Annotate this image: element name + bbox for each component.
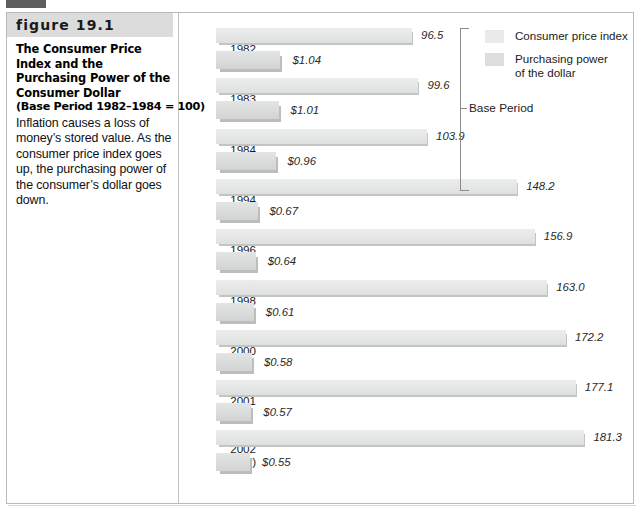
caption-title-line-1: The Consumer Price Index and the	[16, 42, 174, 71]
bar-value-consumer-price-index: 96.5	[421, 29, 443, 42]
bar-value-consumer-price-index: 172.2	[575, 331, 604, 344]
legend-label-purchasing-power: Purchasing power of the dollar	[515, 52, 608, 79]
bar-consumer-price-index	[216, 330, 566, 345]
bar-value-consumer-price-index: 181.3	[593, 431, 622, 444]
figure-number-label: figure 19.1	[16, 17, 115, 33]
base-period-bracket-tick	[460, 108, 467, 109]
bar-value-purchasing-power: $0.57	[263, 406, 292, 419]
bar-value-consumer-price-index: 163.0	[556, 281, 585, 294]
bar-consumer-price-index	[216, 380, 576, 395]
bar-value-purchasing-power: $1.04	[292, 54, 321, 67]
bar-value-purchasing-power: $0.58	[264, 356, 293, 369]
figure-border-shadow	[8, 505, 636, 506]
bar-consumer-price-index	[216, 430, 584, 445]
bar-consumer-price-index	[216, 129, 427, 144]
chart-legend: Consumer price index Purchasing power of…	[485, 29, 628, 88]
legend-item-consumer-price-index: Consumer price index	[485, 29, 628, 43]
caption-block: The Consumer Price Index and the Purchas…	[16, 42, 174, 208]
bar-purchasing-power	[216, 252, 256, 270]
bar-purchasing-power	[216, 202, 258, 220]
bar-consumer-price-index	[216, 280, 547, 295]
bar-value-purchasing-power: $0.67	[270, 205, 299, 218]
legend-label-cpi: Consumer price index	[515, 29, 628, 43]
bar-purchasing-power	[216, 353, 252, 371]
bar-purchasing-power	[216, 101, 279, 119]
caption-title-line-2: Purchasing Power of the	[16, 71, 174, 86]
legend-item-purchasing-power: Purchasing power of the dollar	[485, 52, 628, 79]
caption-body-text: Inflation causes a loss of money’s store…	[16, 116, 174, 208]
caption-subtitle: (Base Period 1982–1984 = 100)	[16, 100, 174, 115]
bar-purchasing-power	[216, 403, 251, 421]
bar-value-purchasing-power: $0.96	[288, 155, 317, 168]
caption-column: figure 19.1 The Consumer Price Index and…	[7, 13, 179, 503]
bar-value-purchasing-power: $0.64	[268, 255, 297, 268]
bar-consumer-price-index	[216, 179, 517, 194]
bar-value-consumer-price-index: 156.9	[544, 230, 573, 243]
bar-purchasing-power	[216, 51, 280, 69]
bar-purchasing-power	[216, 152, 276, 170]
bar-value-consumer-price-index: 148.2	[526, 180, 555, 193]
bar-value-purchasing-power: $0.55	[262, 456, 291, 469]
bar-purchasing-power	[216, 453, 250, 471]
figure-container: figure 19.1 The Consumer Price Index and…	[0, 0, 641, 518]
legend-swatch-icon-cpi	[485, 30, 504, 43]
bar-value-purchasing-power: $1.01	[291, 104, 320, 117]
bar-consumer-price-index	[216, 229, 535, 244]
caption-title-line-3: Consumer Dollar	[16, 86, 174, 101]
base-period-label: Base Period	[469, 101, 533, 115]
bar-value-consumer-price-index: 177.1	[585, 381, 614, 394]
bar-consumer-price-index	[216, 28, 412, 43]
chart-plot-area: 198296.5$1.04198399.6$1.011984103.9$0.96…	[179, 13, 634, 503]
bar-purchasing-power	[216, 303, 254, 321]
base-period-bracket	[460, 28, 469, 191]
legend-swatch-icon-purchasing-power	[485, 53, 504, 66]
bar-value-consumer-price-index: 99.6	[427, 79, 449, 92]
page-tab-marker	[6, 0, 46, 8]
bar-consumer-price-index	[216, 78, 418, 93]
bar-value-purchasing-power: $0.61	[266, 306, 295, 319]
